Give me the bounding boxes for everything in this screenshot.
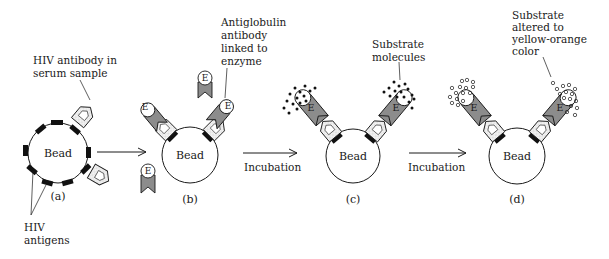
- enzyme-label: E: [308, 102, 315, 113]
- incubation-label-2: Incubation: [408, 161, 465, 173]
- panel-b-label: (b): [182, 193, 198, 206]
- antiglobulin-annotation-line2: antibody: [221, 29, 267, 41]
- panel-d-label: (d): [509, 193, 525, 206]
- substrate-altered-annotation-line4: color: [512, 45, 540, 57]
- antiglobulin-annotation-line4: enzyme: [221, 55, 262, 67]
- enzyme-label: E: [142, 102, 149, 112]
- substrate-annotation-line2: molecules: [372, 51, 425, 63]
- hiv-antibody-annotation-line2: serum sample: [33, 67, 108, 79]
- bead-c-label: Bead: [339, 150, 367, 163]
- substrate-annotation-line1: Substrate: [372, 38, 424, 50]
- substrate-altered-annotation-line3: yellow-orange: [511, 33, 587, 45]
- panel-b: Bead E E E E: [138, 16, 287, 206]
- enzyme-label: E: [145, 166, 152, 176]
- enzyme-label: E: [471, 102, 478, 113]
- hiv-antigens-annotation-line1: HIV: [24, 221, 45, 233]
- antiglobulin-annotation-line1: Antiglobulin: [220, 16, 287, 28]
- antiglobulin-annotation-line3: linked to: [221, 42, 268, 54]
- enzyme-label: E: [557, 102, 564, 113]
- panel-c-label: (c): [346, 193, 361, 206]
- elisa-diagram: Bead (a) HIV antibody in serum sample HI…: [0, 0, 609, 259]
- enzyme-label: E: [225, 101, 232, 111]
- bead-b-label: Bead: [176, 149, 204, 162]
- panel-a-label: (a): [50, 190, 65, 203]
- substrate-altered-annotation-line1: Substrate: [512, 9, 564, 21]
- bead-a-label: Bead: [44, 147, 72, 160]
- enzyme-label: E: [202, 73, 209, 83]
- bead-d-label: Bead: [503, 150, 531, 163]
- enzyme-label: E: [393, 102, 400, 113]
- incubation-label-1: Incubation: [244, 161, 301, 173]
- substrate-altered-annotation-line2: altered to: [512, 21, 564, 33]
- hiv-antibody-annotation-line1: HIV antibody in: [33, 54, 117, 66]
- panel-d: Bead E E: [448, 9, 587, 206]
- hiv-antibody-shape-2: [87, 164, 112, 188]
- panel-a: Bead (a) HIV antibody in serum sample HI…: [23, 54, 117, 246]
- hiv-antibody-shape-1: [71, 102, 96, 128]
- panel-c: Bead E E: [283, 38, 426, 206]
- hiv-antigens-annotation-line2: antigens: [24, 234, 70, 246]
